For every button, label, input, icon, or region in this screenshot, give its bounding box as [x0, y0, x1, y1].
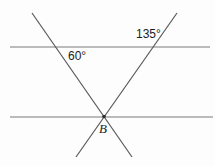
geometry-diagram: 135° 60° B	[0, 0, 215, 166]
angle-label-135: 135°	[136, 28, 161, 40]
transversal-line-left	[32, 13, 132, 157]
diagram-svg	[0, 0, 215, 166]
transversal-line-right	[76, 13, 177, 157]
angle-label-60: 60°	[68, 50, 86, 62]
point-label-b: B	[99, 122, 107, 135]
point-b-dot	[102, 115, 106, 119]
